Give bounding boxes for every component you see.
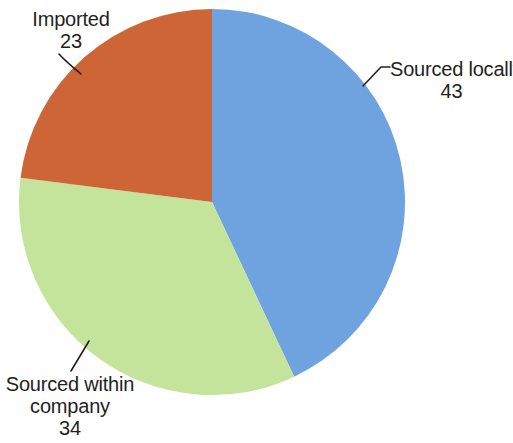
pie-label-imported-value: 23 bbox=[14, 30, 128, 52]
pie-label-sourced-locally: Sourced locally 43 bbox=[390, 58, 513, 102]
pie-label-sourced-locally-title: Sourced locally bbox=[390, 58, 513, 80]
leader-line-sourced-locally bbox=[363, 67, 390, 86]
pie-label-imported: Imported 23 bbox=[14, 8, 128, 52]
pie-chart-figure: Imported 23 Sourced locally 43 Sourced w… bbox=[0, 0, 513, 443]
pie-label-sourced-within-company-value: 34 bbox=[2, 417, 138, 439]
pie-label-sourced-locally-value: 43 bbox=[390, 80, 513, 102]
pie-label-sourced-within-company-title-line1: Sourced within bbox=[2, 373, 138, 395]
leader-line-sourced-within-company bbox=[71, 341, 89, 371]
pie-label-sourced-within-company: Sourced within company 34 bbox=[2, 373, 138, 439]
pie-label-imported-title: Imported bbox=[14, 8, 128, 30]
pie-label-sourced-within-company-title-line2: company bbox=[2, 395, 138, 417]
